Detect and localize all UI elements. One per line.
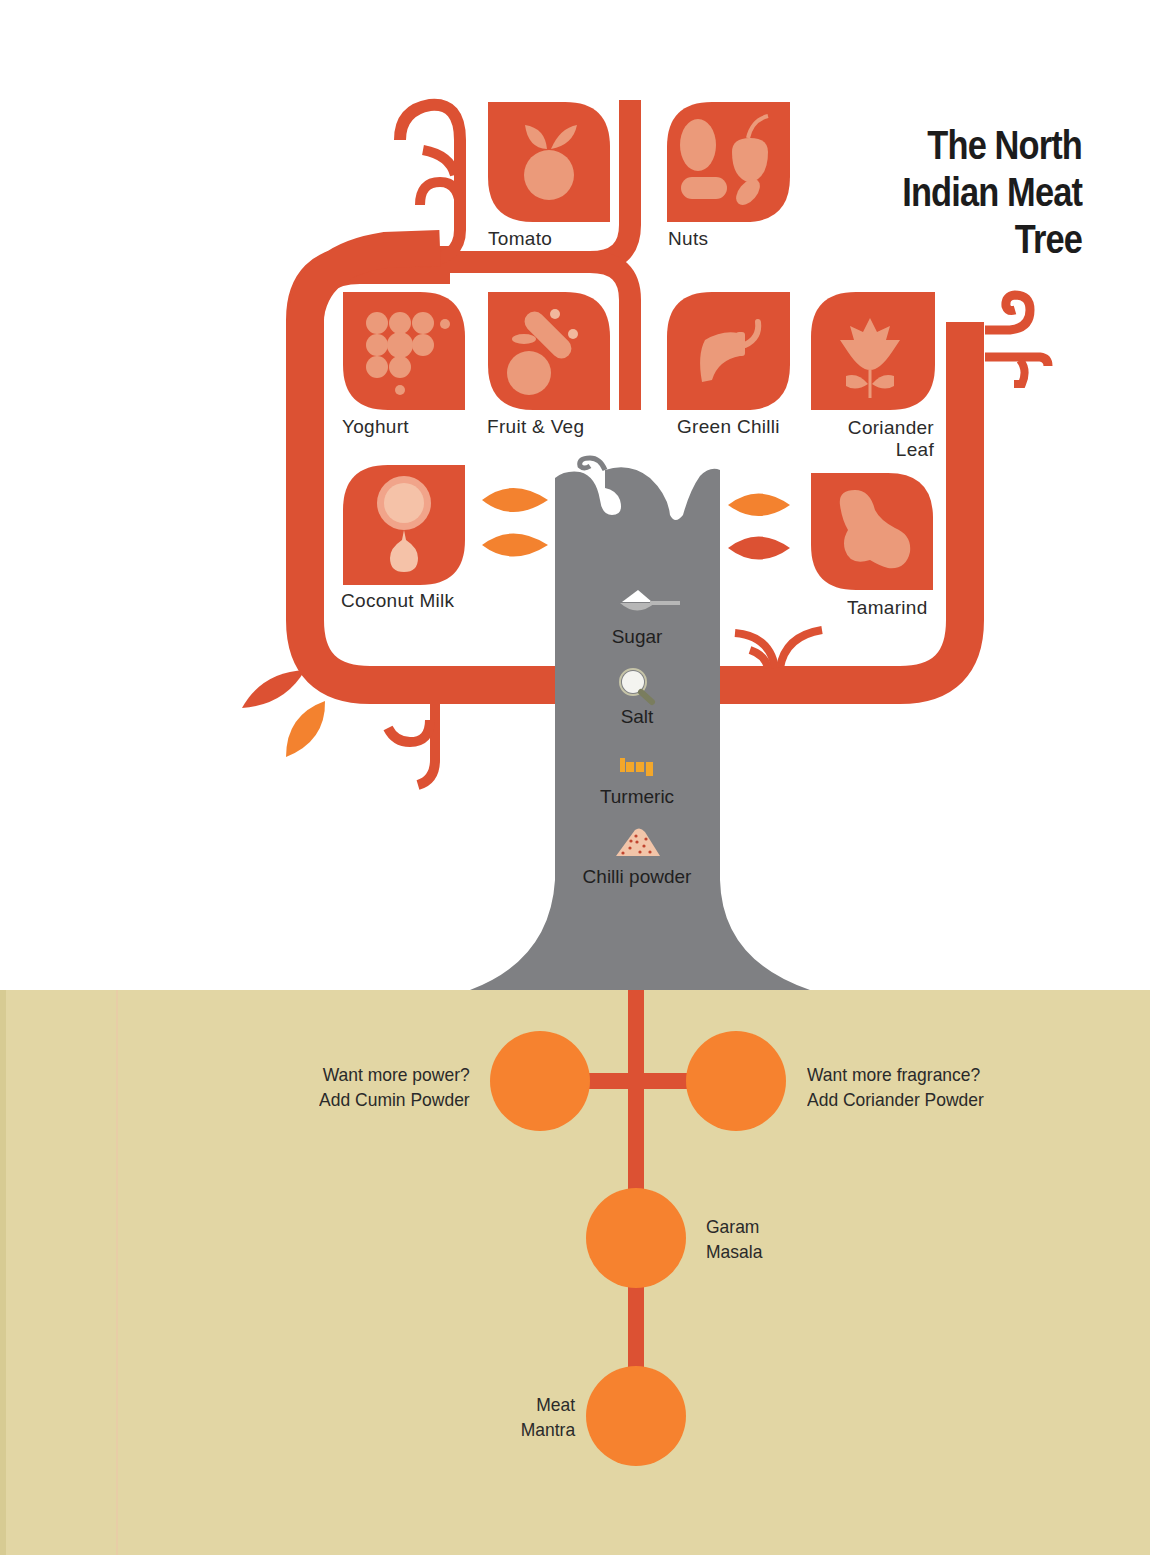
label-yoghurt: Yoghurt bbox=[342, 416, 409, 438]
label-coriander-line1: Coriander bbox=[848, 417, 934, 439]
label-garam-masala: Garam Masala bbox=[706, 1214, 762, 1264]
title-line-2: Indian Meat bbox=[902, 169, 1082, 216]
label-tomato: Tomato bbox=[488, 228, 552, 250]
page-title: The North Indian Meat Tree bbox=[902, 122, 1082, 263]
label-turmeric: Turmeric bbox=[557, 786, 717, 808]
coriander-powder-line2: Add Coriander Powder bbox=[807, 1087, 984, 1112]
leaf bbox=[242, 670, 305, 708]
title-line-3: Tree bbox=[902, 216, 1082, 263]
label-cumin: Want more power? Add Cumin Powder bbox=[319, 1062, 470, 1112]
grass-sprout bbox=[735, 630, 822, 668]
label-tamarind: Tamarind bbox=[847, 597, 928, 619]
meat-mantra-line1: Meat bbox=[521, 1392, 575, 1417]
label-fruit-veg: Fruit & Veg bbox=[487, 416, 584, 438]
label-coriander-line2: Leaf bbox=[848, 439, 934, 461]
label-meat-mantra: Meat Mantra bbox=[521, 1392, 575, 1442]
label-chilli-powder: Chilli powder bbox=[557, 866, 717, 888]
garam-masala-line1: Garam bbox=[706, 1214, 762, 1239]
label-coconut-milk: Coconut Milk bbox=[341, 590, 454, 612]
label-salt: Salt bbox=[557, 706, 717, 728]
hook-ornament bbox=[388, 700, 435, 785]
title-line-1: The North bbox=[902, 122, 1082, 169]
tile-fruit-veg bbox=[488, 292, 610, 410]
leaf bbox=[482, 488, 548, 512]
leaf bbox=[482, 534, 548, 557]
label-nuts: Nuts bbox=[668, 228, 708, 250]
leaf bbox=[728, 537, 790, 560]
meat-mantra-line2: Mantra bbox=[521, 1417, 575, 1442]
steam-swirl bbox=[580, 458, 605, 470]
cumin-line2: Add Cumin Powder bbox=[319, 1087, 470, 1112]
meat-mantra-circle bbox=[586, 1366, 686, 1466]
cumin-line1: Want more power? bbox=[319, 1062, 470, 1087]
garam-masala-circle bbox=[586, 1188, 686, 1288]
leaf bbox=[286, 701, 325, 757]
label-coriander-powder: Want more fragrance? Add Coriander Powde… bbox=[807, 1062, 984, 1112]
garam-masala-line2: Masala bbox=[706, 1239, 762, 1264]
label-green-chilli: Green Chilli bbox=[677, 416, 780, 438]
cumin-circle bbox=[490, 1031, 590, 1131]
label-coriander-leaf: Coriander Leaf bbox=[848, 417, 934, 461]
coriander-powder-circle bbox=[686, 1031, 786, 1131]
label-sugar: Sugar bbox=[557, 626, 717, 648]
leaf bbox=[728, 494, 790, 517]
right-curl bbox=[985, 295, 1048, 384]
coriander-powder-line1: Want more fragrance? bbox=[807, 1062, 984, 1087]
